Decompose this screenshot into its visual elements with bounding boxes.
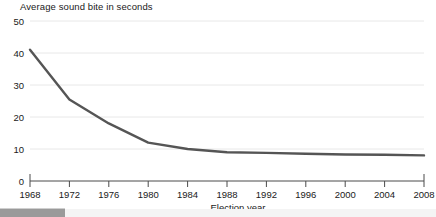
chart-figure: Average sound bite in seconds 0102030405… bbox=[0, 0, 436, 217]
x-axis-tick-label: 1996 bbox=[295, 189, 316, 200]
x-axis-tick-label: 2000 bbox=[335, 189, 356, 200]
data-series-line bbox=[30, 50, 424, 156]
gridlines-group bbox=[30, 21, 424, 149]
x-axis-tick-label: 1988 bbox=[216, 189, 237, 200]
horizontal-scrollbar-track[interactable] bbox=[0, 209, 436, 217]
x-axis-tick-label: 1984 bbox=[177, 189, 198, 200]
x-axis-tick-label: 1972 bbox=[59, 189, 80, 200]
x-axis-tick-label: 1976 bbox=[98, 189, 119, 200]
x-axis-tick-label: 1992 bbox=[256, 189, 277, 200]
x-axis-tick-label: 2004 bbox=[374, 189, 395, 200]
x-axis-tick-label: 2008 bbox=[413, 189, 434, 200]
horizontal-scrollbar-thumb[interactable] bbox=[0, 208, 65, 217]
y-axis-tick-label: 0 bbox=[19, 176, 24, 187]
y-axis-tick-label: 10 bbox=[13, 144, 24, 155]
y-axis-tick-label: 40 bbox=[13, 48, 24, 59]
line-chart-plot: 01020304050 1968197219761980198419881992… bbox=[0, 0, 436, 217]
x-axis-group bbox=[30, 174, 424, 187]
y-axis-tick-label: 20 bbox=[13, 112, 24, 123]
x-axis-tick-label: 1980 bbox=[138, 189, 159, 200]
x-axis-tick-labels: 1968197219761980198419881992199620002004… bbox=[19, 189, 434, 200]
x-axis-tick-label: 1968 bbox=[19, 189, 40, 200]
y-axis-tick-labels: 01020304050 bbox=[13, 16, 24, 187]
y-axis-tick-label: 50 bbox=[13, 16, 24, 27]
y-axis-tick-label: 30 bbox=[13, 80, 24, 91]
